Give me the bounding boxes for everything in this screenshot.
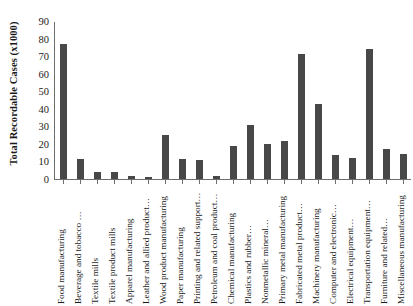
x-axis-label: Computer and electronic… [327,204,339,304]
x-axis-label-slot: Plastics and rubber… [241,184,258,306]
x-axis-label-slot: Food manufacturing [54,184,71,306]
bar [400,154,407,179]
x-axis-label-slot: Printing and related support… [190,184,207,306]
x-axis-label: Printing and related support… [191,192,203,304]
y-tick-label: 60 [39,69,50,80]
bar [213,176,220,180]
y-tick-label: 70 [39,52,50,63]
bar [247,125,254,179]
x-axis-label: Plastics and rubber… [242,225,254,304]
x-axis-label-slot: Textile product mills [105,184,122,306]
x-axis-label: Fabricated metal product… [293,203,305,304]
x-axis-label: Furniture and related… [378,218,390,304]
x-axis-label-slot: Wood product manufacturing [156,184,173,306]
bar [281,141,288,179]
x-axis-label: Nonmetallic mineral… [259,219,271,304]
bar [94,172,101,179]
y-tick-label: 20 [39,140,50,151]
x-axis-label: Paper manufacturing [174,227,186,304]
y-axis-title: Total Recordable Cases (x1000) [0,0,26,186]
bar [162,135,169,179]
plot-area [54,22,411,180]
x-axis-label-slot: Beverage and tobacco … [71,184,88,306]
x-axis-label: Textile mills [89,258,101,304]
bar [179,159,186,179]
bar [60,44,67,179]
x-axis-label: Apparel manufacturing [123,219,135,304]
x-axis-label: Electrical equipment… [344,219,356,304]
bar [298,54,305,179]
x-axis-label-slot: Chemical manufacturing [224,184,241,306]
bars-layer [55,22,411,179]
y-tick-label: 50 [39,87,50,98]
x-axis-label-slot: Primary metal manufacturing [275,184,292,306]
y-tick-label: 90 [39,17,50,28]
x-axis-label-slot: Miscellaneous manufacturing [394,184,411,306]
x-axis-label-slot: Machinery manufacturing [309,184,326,306]
x-axis-label: Textile product mills [106,228,118,304]
x-axis-label: Chemical manufacturing [225,213,237,304]
bar [77,159,84,179]
y-tick-label: 30 [39,122,50,133]
x-axis-label-slot: Petroleum and coal product… [207,184,224,306]
x-axis-label: Machinery manufacturing [310,208,322,304]
bar [111,172,118,179]
bar [128,176,135,180]
x-axis-label: Miscellaneous manufacturing [395,195,407,304]
bar [230,146,237,179]
x-axis-label-slot: Nonmetallic mineral… [258,184,275,306]
x-axis-label-slot: Textile mills [88,184,105,306]
bar [264,144,271,179]
x-axis-label: Leather and allied product… [140,198,152,304]
y-axis-tick-labels: 0102030405060708090 [26,0,52,186]
x-axis-label-slot: Furniture and related… [377,184,394,306]
x-axis-label-slot: Electrical equipment… [343,184,360,306]
bar [196,160,203,179]
y-tick-label: 40 [39,105,50,116]
x-axis-label-slot: Apparel manufacturing [122,184,139,306]
x-axis-label-slot: Transportation equipment… [360,184,377,306]
bar [366,49,373,179]
bar-chart: Total Recordable Cases (x1000) 010203040… [0,0,413,306]
x-axis-label-slot: Paper manufacturing [173,184,190,306]
x-axis-label-slot: Computer and electronic… [326,184,343,306]
y-tick-label: 0 [44,175,49,186]
bar [332,155,339,179]
x-axis-label: Food manufacturing [55,229,67,304]
bar [315,104,322,179]
y-axis-title-label: Total Recordable Cases (x1000) [8,21,19,165]
x-axis-label-slot: Fabricated metal product… [292,184,309,306]
x-axis-label: Primary metal manufacturing [276,196,288,304]
bar [349,158,356,179]
x-axis-label: Wood product manufacturing [157,196,169,304]
x-axis-label: Transportation equipment… [361,200,373,304]
y-tick-label: 10 [39,157,50,168]
bar [383,149,390,179]
x-axis-label: Beverage and tobacco … [72,211,84,304]
x-axis-label: Petroleum and coal product… [208,194,220,304]
x-axis-label-slot: Leather and allied product… [139,184,156,306]
y-tick-label: 80 [39,34,50,45]
bar [145,177,152,179]
x-axis-category-labels: Food manufacturingBeverage and tobacco …… [54,184,411,306]
